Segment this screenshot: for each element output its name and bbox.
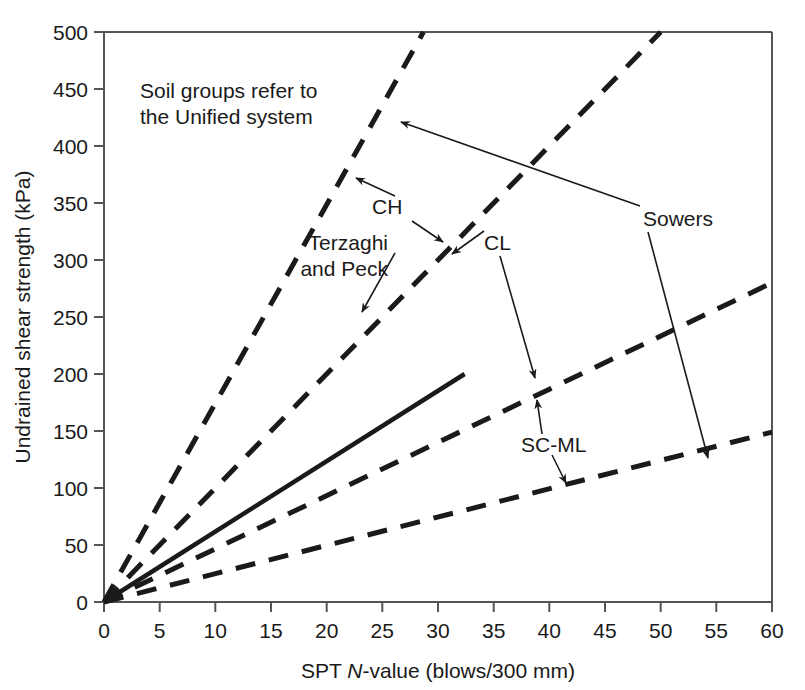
x-axis-tick-labels: 0 5 10 15 20 25 30 35 40 45 50 55 60 <box>98 619 784 642</box>
label-cl: CL <box>484 231 511 254</box>
x-axis-title: SPT N-value (blows/300 mm) <box>301 659 575 682</box>
y-tick-label: 500 <box>53 21 88 44</box>
y-tick-label: 100 <box>53 477 88 500</box>
label-sowers: Sowers <box>643 207 713 230</box>
x-tick-label: 35 <box>482 619 505 642</box>
x-axis-title-prefix: SPT <box>301 659 347 682</box>
y-tick-label: 150 <box>53 420 88 443</box>
note-line-2: the Unified system <box>140 105 313 128</box>
y-tick-label: 300 <box>53 249 88 272</box>
x-tick-label: 5 <box>154 619 166 642</box>
y-axis-title: Undrained shear strength (kPa) <box>11 171 34 464</box>
y-tick-label: 350 <box>53 192 88 215</box>
x-axis-title-italic: N <box>347 659 363 682</box>
x-tick-label: 45 <box>593 619 616 642</box>
x-tick-label: 25 <box>371 619 394 642</box>
y-tick-label: 200 <box>53 363 88 386</box>
note-line-1: Soil groups refer to <box>140 79 317 102</box>
x-tick-label: 50 <box>649 619 672 642</box>
x-axis-ticks <box>104 602 772 612</box>
label-terzaghi: Terzaghi <box>309 231 388 254</box>
y-tick-label: 400 <box>53 135 88 158</box>
y-axis-tick-labels: 500 450 400 350 300 250 200 150 100 50 0 <box>53 21 88 614</box>
y-tick-label: 250 <box>53 306 88 329</box>
x-tick-label: 30 <box>426 619 449 642</box>
y-tick-label: 50 <box>65 534 88 557</box>
x-tick-label: 60 <box>760 619 783 642</box>
chart-figure: 500 450 400 350 300 250 200 150 100 50 0 <box>0 0 805 690</box>
chart-svg: 500 450 400 350 300 250 200 150 100 50 0 <box>0 0 805 690</box>
x-axis-title-suffix: -value (blows/300 mm) <box>363 659 575 682</box>
x-tick-label: 15 <box>259 619 282 642</box>
label-sc-ml: SC-ML <box>521 433 586 456</box>
y-tick-label: 0 <box>76 591 88 614</box>
label-and-peck: and Peck <box>300 257 388 280</box>
x-tick-label: 0 <box>98 619 110 642</box>
y-axis-ticks <box>94 32 104 602</box>
y-tick-label: 450 <box>53 78 88 101</box>
x-tick-label: 10 <box>204 619 227 642</box>
x-tick-label: 55 <box>705 619 728 642</box>
label-ch: CH <box>372 195 402 218</box>
x-tick-label: 40 <box>538 619 561 642</box>
x-tick-label: 20 <box>315 619 338 642</box>
